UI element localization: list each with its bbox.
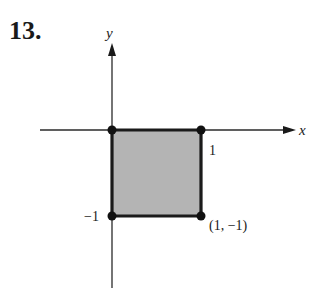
shaded-square-region xyxy=(112,130,201,216)
vertex-origin-dot xyxy=(108,126,117,135)
vertex-1-neg1-dot xyxy=(197,212,206,221)
x-tick-label: 1 xyxy=(209,143,216,158)
vertex-1-0-dot xyxy=(197,126,206,135)
vertex-0-neg1-dot xyxy=(108,212,117,221)
x-axis-arrow-icon xyxy=(283,126,296,134)
y-tick-label: −1 xyxy=(84,209,99,224)
y-axis-label: y xyxy=(104,25,113,41)
corner-point-label: (1, −1) xyxy=(209,218,248,234)
y-axis-arrow-icon xyxy=(108,43,116,56)
x-axis-label: x xyxy=(298,122,306,138)
coordinate-diagram: y x 1 −1 (1, −1) xyxy=(0,0,328,293)
